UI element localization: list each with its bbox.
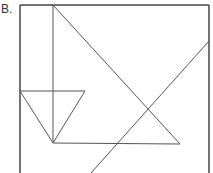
geometry-diagram	[0, 0, 213, 173]
diagram-lines	[20, 5, 209, 173]
small-triangle-right	[53, 91, 85, 143]
large-triangle-hypotenuse	[53, 5, 180, 144]
long-diagonal	[91, 41, 209, 173]
small-triangle-left	[20, 91, 53, 143]
